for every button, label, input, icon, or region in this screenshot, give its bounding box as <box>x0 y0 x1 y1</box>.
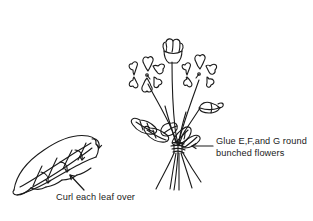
illustration-artboard <box>0 0 313 221</box>
curl-arrow-1 <box>92 139 102 148</box>
glue-annotation-line1: Glue E,F,and G round <box>216 135 307 147</box>
glue-label-leader <box>192 144 213 149</box>
glue-annotation-label: Glue E,F,and G round bunched flowers <box>216 135 307 159</box>
flower-bud <box>199 102 223 113</box>
flower-left <box>129 57 164 92</box>
figure-page: Glue E,F,and G round bunched flowers Cur… <box>0 0 313 221</box>
flower-right <box>182 55 217 87</box>
bouquet-lower-stems <box>156 153 201 190</box>
flower-top <box>163 39 183 63</box>
curl-annotation-label: Curl each leaf over <box>56 192 135 203</box>
curled-leaf-illustration <box>13 136 102 195</box>
curl-label-leader <box>70 175 84 190</box>
glue-annotation-line2: bunched flowers <box>216 147 307 159</box>
